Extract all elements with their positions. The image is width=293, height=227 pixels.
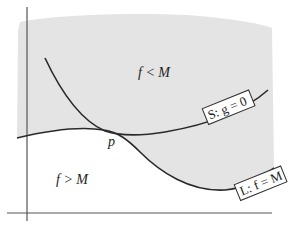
point-p-label: p [107,134,115,149]
constraint-diagram: f < M f > M p S: g = 0 L: f = M [0,0,293,227]
lower-region-label: f > M [56,172,89,187]
upper-region-label: f < M [138,65,171,80]
